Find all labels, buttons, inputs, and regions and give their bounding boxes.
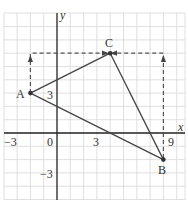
tick-label-origin: 0 <box>47 136 53 148</box>
tick-label-y-minus3: −3 <box>40 168 53 180</box>
tick-label-y-3: 3 <box>47 89 53 101</box>
x-axis-label: x <box>178 121 183 133</box>
dashed-path-b-to-c <box>113 53 163 158</box>
tick-label-x-9: 9 <box>168 136 174 148</box>
point-label-c: C <box>105 37 113 49</box>
point-label-b: B <box>158 164 166 176</box>
arrow-up-icon <box>161 55 166 62</box>
y-axis-label: y <box>60 9 65 21</box>
tick-label-x-3: 3 <box>93 136 99 148</box>
tick-label-x-minus3: −3 <box>4 136 17 148</box>
coordinate-diagram: y x A B C −3 0 3 9 3 −3 <box>0 0 188 202</box>
arrow-up-icon <box>28 55 33 62</box>
point-b <box>161 157 166 162</box>
point-c <box>108 51 113 56</box>
point-label-a: A <box>16 88 25 100</box>
point-a <box>28 91 33 96</box>
